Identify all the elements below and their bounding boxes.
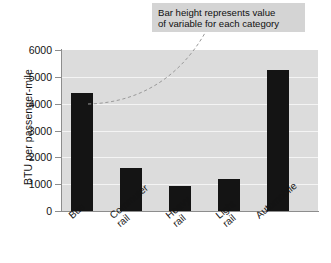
bar-bus (71, 93, 93, 211)
callout-text: Bar height represents value of variable … (158, 7, 304, 30)
y-tick-mark (55, 104, 61, 105)
plot-area (62, 50, 318, 211)
y-tick-label-3000: 3000 (12, 126, 52, 136)
y-tick-label-5000: 5000 (12, 72, 52, 82)
y-tick-mark (55, 184, 61, 185)
y-tick-label-4000: 4000 (12, 99, 52, 109)
y-tick-mark (55, 131, 61, 132)
callout-box: Bar height represents value of variable … (152, 3, 305, 32)
y-tick-mark (55, 50, 61, 51)
y-tick-label-1000: 1000 (12, 179, 52, 189)
y-tick-label-0: 0 (12, 206, 52, 216)
bar-chart-figure: BTU per passenger-mile 0 1000 2000 3000 … (0, 0, 331, 263)
y-tick-mark (55, 157, 61, 158)
y-tick-label-6000: 6000 (12, 45, 52, 55)
y-tick-mark (55, 211, 61, 212)
y-tick-mark (55, 77, 61, 78)
y-tick-label-2000: 2000 (12, 152, 52, 162)
y-axis-line (61, 49, 62, 212)
